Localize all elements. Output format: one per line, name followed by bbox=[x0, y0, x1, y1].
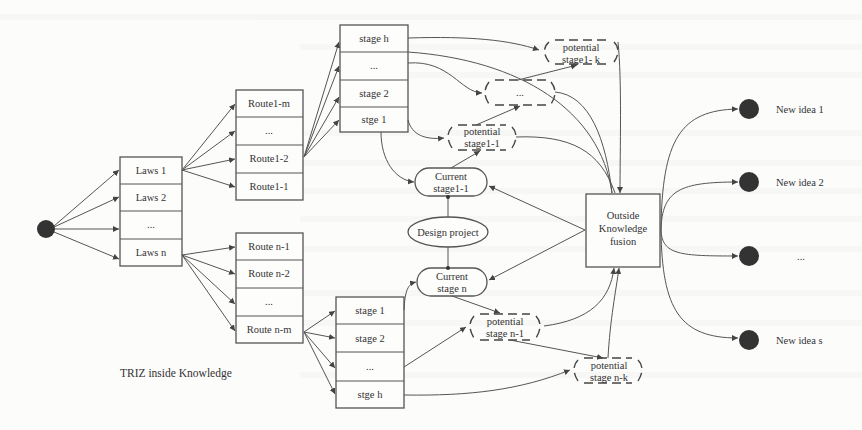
route-item: Route1-m bbox=[248, 98, 290, 109]
stage-item: ... bbox=[370, 60, 378, 71]
design-project-node: Design project bbox=[408, 217, 488, 247]
svg-text:Current: Current bbox=[436, 271, 468, 282]
stage-item: stage 1 bbox=[355, 305, 384, 316]
idea-node bbox=[739, 246, 759, 266]
stage-item: stage 2 bbox=[355, 333, 384, 344]
svg-text:stage n: stage n bbox=[437, 283, 467, 294]
start-to-laws-arrows bbox=[54, 170, 119, 259]
idea-label: New idea 2 bbox=[776, 177, 824, 188]
idea-node bbox=[739, 172, 759, 192]
svg-text:Current: Current bbox=[435, 171, 467, 182]
outside-knowledge-fusion-node: Outside Knowledge fusion bbox=[586, 194, 660, 267]
stage-item: stage 2 bbox=[359, 88, 388, 99]
route-item: ... bbox=[265, 296, 273, 307]
idea-label: New idea 1 bbox=[776, 104, 824, 115]
svg-text:stage1-1: stage1-1 bbox=[464, 138, 500, 149]
laws-item: Laws 2 bbox=[136, 192, 167, 203]
svg-text:fusion: fusion bbox=[610, 236, 637, 247]
diagram-caption: TRIZ inside Knowledge bbox=[120, 367, 232, 380]
potential-stage-n-k: potential stage n-k bbox=[574, 358, 642, 383]
routes-1-stack: Route1-m ... Route1-2 Route1-1 bbox=[236, 90, 303, 200]
current-stage-n-node: Current stage n bbox=[417, 268, 487, 296]
routes-n-stack: Route n-1 Route n-2 ... Route n-m bbox=[236, 233, 303, 343]
potential-stage1-k: potential stage1- k bbox=[545, 40, 619, 65]
laws-to-routes-arrows bbox=[182, 104, 235, 331]
svg-text:potential: potential bbox=[563, 42, 600, 53]
svg-text:...: ... bbox=[516, 87, 524, 98]
laws-stack: Laws 1 Laws 2 ... Laws n bbox=[120, 157, 182, 266]
potential-stage-n-1: potential stage n-1 bbox=[470, 314, 540, 340]
idea-label: ... bbox=[797, 251, 805, 262]
svg-text:stage1-1: stage1-1 bbox=[433, 183, 469, 194]
idea-label: New idea s bbox=[776, 335, 823, 346]
potential-stage1-1: potential stage1-1 bbox=[448, 125, 516, 150]
svg-text:stage1- k: stage1- k bbox=[562, 54, 601, 65]
idea-node bbox=[739, 330, 759, 350]
svg-text:Outside: Outside bbox=[607, 210, 640, 221]
stage-item: stge 1 bbox=[362, 114, 387, 125]
start-node bbox=[37, 220, 55, 238]
svg-text:stage n-1: stage n-1 bbox=[486, 328, 524, 339]
route-item: Route n-m bbox=[247, 324, 292, 335]
svg-text:potential: potential bbox=[464, 126, 501, 137]
svg-text:Knowledge: Knowledge bbox=[599, 223, 648, 234]
idea-nodes: New idea 1 New idea 2 ... New idea s bbox=[739, 99, 824, 350]
route1-to-stages-arrows bbox=[304, 42, 339, 157]
triz-knowledge-diagram: Laws 1 Laws 2 ... Laws n Route1-m ... Ro… bbox=[0, 0, 862, 430]
laws-item: Laws n bbox=[136, 247, 167, 258]
idea-node bbox=[739, 99, 759, 119]
svg-text:Design project: Design project bbox=[417, 227, 479, 238]
svg-text:potential: potential bbox=[487, 316, 524, 327]
route-item: Route1-1 bbox=[249, 181, 288, 192]
stage-item: ... bbox=[366, 361, 374, 372]
fusion-to-ideas-connectors bbox=[661, 109, 738, 338]
route-item: Route1-2 bbox=[249, 153, 288, 164]
stages-top-stack: stage h ... stage 2 stge 1 bbox=[340, 25, 408, 132]
route-item: Route n-1 bbox=[248, 241, 290, 252]
svg-text:potential: potential bbox=[591, 360, 628, 371]
route-item: ... bbox=[265, 125, 273, 136]
current-stage1-1-node: Current stage1-1 bbox=[415, 168, 487, 196]
stages-bottom-stack: stage 1 stage 2 ... stge h bbox=[336, 297, 404, 408]
stage-item: stage h bbox=[359, 33, 389, 44]
route-item: Route n-2 bbox=[248, 268, 290, 279]
laws-item: Laws 1 bbox=[136, 165, 167, 176]
laws-item: ... bbox=[147, 219, 155, 230]
svg-text:stage n-k: stage n-k bbox=[590, 372, 629, 383]
stage-item: stge h bbox=[358, 389, 384, 400]
